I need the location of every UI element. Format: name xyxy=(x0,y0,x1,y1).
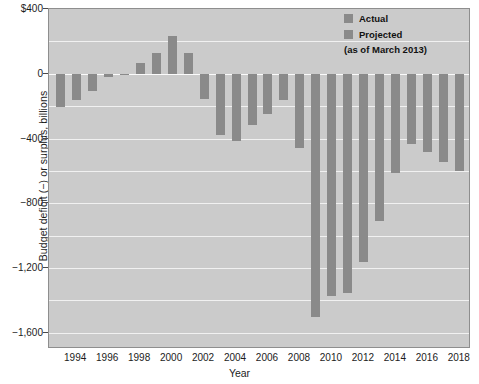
legend-label-projected: Projected xyxy=(359,29,402,40)
x-tick-label: 2018 xyxy=(439,352,479,363)
legend-label-actual: Actual xyxy=(359,13,388,24)
legend-item-actual: Actual xyxy=(344,12,427,24)
legend-note: (as of March 2013) xyxy=(344,44,427,55)
legend-swatch-actual xyxy=(344,14,353,23)
chart-figure: Budget deficit (−) or surplus, billions … xyxy=(0,0,479,384)
x-axis-title: Year xyxy=(0,367,479,379)
legend-item-projected: Projected xyxy=(344,28,427,40)
x-axis-ticks: 1994199619982000200220042006200820102012… xyxy=(0,0,479,384)
chart-legend: Actual Projected (as of March 2013) xyxy=(344,12,427,55)
legend-swatch-projected xyxy=(344,30,353,39)
